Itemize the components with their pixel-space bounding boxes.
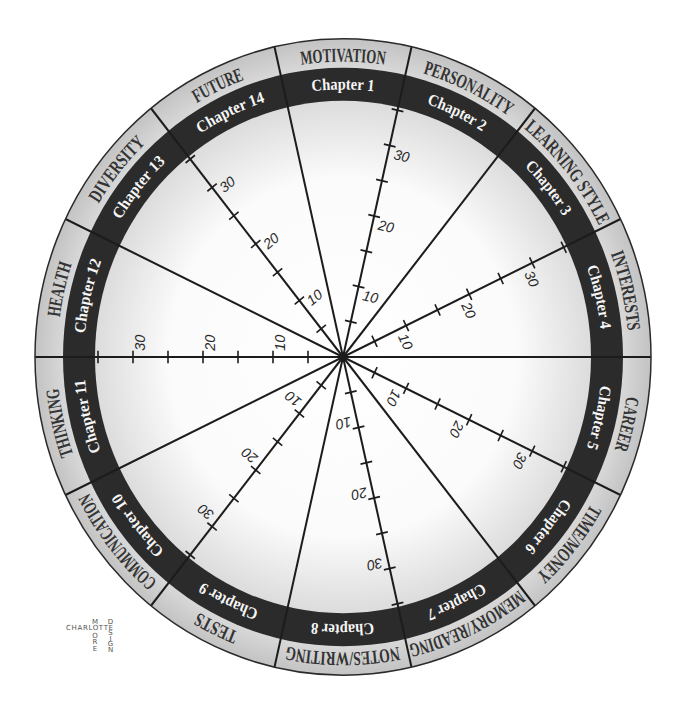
chapter-label-text: Chapter 8 (310, 619, 375, 639)
scale-label: 20 (202, 335, 218, 352)
logo-letter-design: N (108, 646, 113, 654)
chapter-label: Chapter 8 (310, 619, 375, 639)
logo-word-charlotte: CHARLOTTE (66, 624, 113, 632)
life-wheel-diagram: 1020301020301020301020301020301020301020… (0, 0, 683, 705)
category-label: MOTIVATION (299, 44, 387, 69)
center-hub (339, 353, 347, 361)
charlotte-moore-design-logo: CHARLOTTEMOREDSIGN (66, 618, 113, 654)
logo-letter-moore: M (92, 618, 98, 626)
chapter-label: Chapter 1 (311, 75, 376, 95)
chapter-label-text: Chapter 1 (311, 75, 376, 95)
scale-label: 30 (132, 335, 148, 351)
logo-letter-moore: E (93, 645, 97, 653)
scale-label: 10 (272, 335, 288, 351)
wheel-diagram-page: 1020301020301020301020301020301020301020… (0, 0, 683, 705)
wheel: 1020301020301020301020301020301020301020… (35, 39, 651, 675)
category-label-text: MOTIVATION (299, 44, 387, 69)
logo-letter-design: D (108, 618, 113, 626)
